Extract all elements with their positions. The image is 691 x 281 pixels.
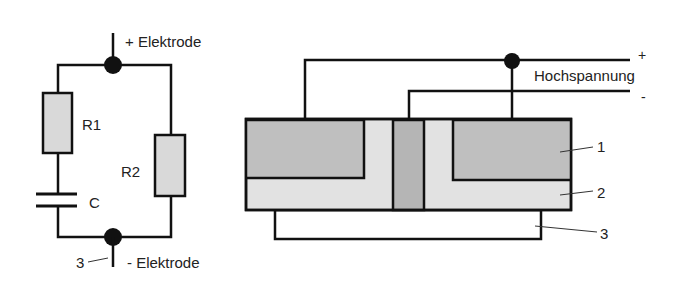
- minus-electrode-label: - Elektrode: [127, 254, 200, 271]
- left-electrode: [247, 120, 364, 178]
- capacitor-label: C: [89, 194, 100, 211]
- r2-label: R2: [121, 163, 140, 180]
- terminal-3-leader: [88, 258, 108, 262]
- hochspannung-label: Hochspannung: [534, 67, 635, 84]
- top-node: [104, 56, 122, 74]
- r1-label: R1: [82, 116, 101, 133]
- hv-minus-label: -: [641, 89, 646, 105]
- resistor-r1: [43, 93, 72, 153]
- plus-junction-node: [504, 53, 520, 69]
- high-voltage-minus-wire: [409, 91, 630, 119]
- electrode-cross-section: + Hochspannung - 1 2 3: [246, 47, 646, 242]
- diagram-canvas: + Elektrode R1 R2 C 3 - Elektrode + Hoch…: [0, 0, 691, 281]
- hv-plus-label: +: [638, 47, 646, 63]
- center-electrode: [393, 120, 424, 210]
- callout-3-label: 3: [600, 225, 608, 242]
- equivalent-circuit: + Elektrode R1 R2 C 3 - Elektrode: [36, 33, 201, 271]
- resistor-r2: [155, 135, 185, 196]
- terminal-3-label: 3: [76, 254, 84, 271]
- callout-2-label: 2: [597, 184, 605, 201]
- substrate-layer-3: [275, 210, 541, 239]
- right-electrode: [453, 120, 570, 180]
- callout-3-leader: [535, 226, 597, 232]
- plus-electrode-label: + Elektrode: [125, 33, 201, 50]
- top-wire: [58, 65, 171, 135]
- callout-1-label: 1: [597, 138, 605, 155]
